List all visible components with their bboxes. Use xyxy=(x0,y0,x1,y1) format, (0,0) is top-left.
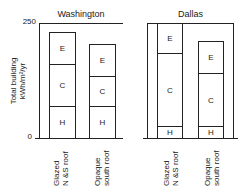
dallas-glazed-label: Glazed N &S roof xyxy=(162,151,180,186)
segment-e: E xyxy=(50,33,75,64)
dallas-opaque-label: Opaque south roof xyxy=(203,150,221,186)
segment-c: C xyxy=(199,73,223,126)
segment-c: C xyxy=(90,76,115,106)
dallas-panel-title: Dallas xyxy=(147,9,234,19)
label-line1: Glazed xyxy=(162,151,171,186)
label-line2: N &S roof xyxy=(171,151,180,186)
segment-h: H xyxy=(158,126,182,138)
y-axis-label-line1: Total building xyxy=(9,51,18,111)
segment-e: E xyxy=(158,24,182,53)
y-axis-label-line2: kWh/m²/yr xyxy=(18,51,27,111)
washington-panel-title: Washington xyxy=(40,9,122,19)
y-tick-250: 250 xyxy=(12,17,36,26)
segment-h: H xyxy=(50,106,75,138)
dallas-opaque-bar: E C H xyxy=(198,41,224,139)
washington-opaque-bar: E C H xyxy=(89,44,116,139)
washington-glazed-label: Glazed N &S roof xyxy=(52,151,70,186)
segment-c: C xyxy=(50,64,75,106)
segment-c: C xyxy=(158,53,182,126)
segment-h: H xyxy=(90,106,115,138)
segment-e: E xyxy=(199,42,223,73)
segment-e: E xyxy=(90,45,115,76)
label-line1: Glazed xyxy=(52,151,61,186)
label-line2: south roof xyxy=(102,150,111,186)
washington-y-axis xyxy=(39,23,40,139)
washington-opaque-label: Opaque south roof xyxy=(93,150,111,186)
label-line2: south roof xyxy=(212,150,221,186)
y-axis-label: Total building kWh/m²/yr xyxy=(9,51,27,111)
label-line1: Opaque xyxy=(203,150,212,186)
washington-frame-top xyxy=(39,23,123,24)
label-line2: N &S roof xyxy=(61,151,70,186)
dallas-glazed-bar: E C H xyxy=(157,23,183,139)
y-tick-0: 0 xyxy=(8,132,32,141)
segment-h: H xyxy=(199,126,223,138)
washington-glazed-bar: E C H xyxy=(49,32,76,139)
label-line1: Opaque xyxy=(93,150,102,186)
